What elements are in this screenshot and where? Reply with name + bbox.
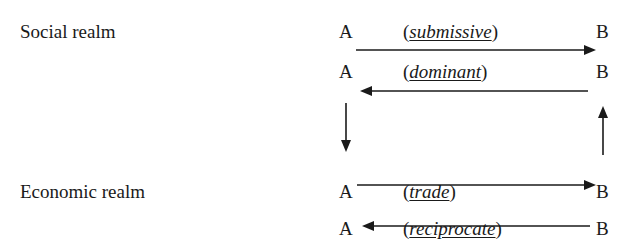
- arrows-layer: [0, 0, 623, 240]
- arrow-right-icon: [356, 45, 596, 55]
- arrow-up-icon: [598, 106, 608, 155]
- arrow-down-icon: [341, 103, 351, 152]
- arrow-left-icon: [360, 86, 588, 96]
- arrow-left-icon: [362, 221, 590, 231]
- arrow-right-icon: [357, 180, 596, 190]
